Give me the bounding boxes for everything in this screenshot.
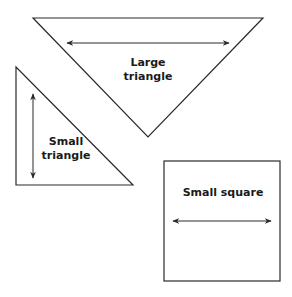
small-triangle-shape [16,67,133,185]
large-triangle-label: Large triangle [118,56,178,84]
small-square-shape [164,161,280,281]
small-square-label: Small square [180,186,266,200]
large-triangle-label-line2: triangle [118,70,178,84]
diagram-canvas: Large triangle Small triangle Small squa… [0,0,292,297]
large-triangle-label-line1: Large [118,56,178,70]
small-triangle-label-line1: Small [36,135,96,149]
small-triangle-label: Small triangle [36,135,96,163]
small-triangle-label-line2: triangle [36,149,96,163]
